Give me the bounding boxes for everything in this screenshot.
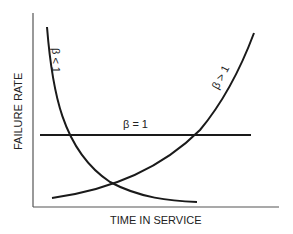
y-axis-label: FAILURE RATE: [12, 73, 24, 150]
x-axis-label: TIME IN SERVICE: [110, 214, 201, 226]
beta-less-1-label: β < 1: [50, 48, 62, 73]
weibull-failure-rate-chart: β < 1 β = 1 β > 1 FAILURE RATE TIME IN S…: [0, 0, 293, 234]
beta-less-1-curve: [47, 27, 197, 202]
beta-greater-1-label: β > 1: [209, 63, 231, 91]
beta-greater-1-curve: [52, 33, 254, 198]
beta-equal-1-label: β = 1: [123, 118, 148, 130]
